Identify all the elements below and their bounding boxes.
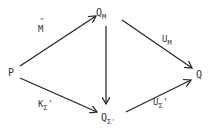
arrow-p-to-qm [20, 16, 96, 66]
arrow-p-to-qs [20, 78, 97, 112]
edge-label-u-m: UM [162, 34, 172, 47]
node-q: Q [196, 69, 202, 80]
commutative-diagram: P QM Q QΣ' ^ M UM KΣ' UΣ' [0, 0, 210, 132]
node-qm: QM [96, 7, 106, 21]
edge-label-m-hat: M [38, 24, 44, 34]
edge-label-k-sigma: KΣ' [38, 99, 53, 112]
edge-label-u-sigma: UΣ' [153, 97, 168, 110]
arrow-qm-to-q [122, 20, 192, 68]
node-p: P [8, 67, 14, 78]
node-qs: QΣ' [101, 112, 115, 126]
